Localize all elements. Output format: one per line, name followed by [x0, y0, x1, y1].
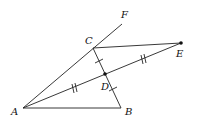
point-d-dot [103, 72, 107, 76]
segment-ae [23, 43, 181, 108]
tick-cd [95, 59, 103, 63]
label-a: A [10, 106, 18, 117]
label-f: F [120, 9, 129, 20]
segment-bc [93, 48, 121, 108]
diagram-canvas: F C E D A B [0, 0, 199, 122]
geometry-diagram: F C E D A B [0, 0, 199, 122]
ray-af [23, 24, 122, 108]
tick-ad-1 [72, 84, 74, 93]
label-b: B [124, 106, 132, 117]
point-e-dot [179, 41, 183, 45]
segment-ce [93, 43, 181, 48]
label-c: C [85, 35, 93, 46]
label-d: D [100, 81, 109, 92]
tick-ad-2 [75, 83, 77, 92]
label-e: E [175, 48, 184, 59]
